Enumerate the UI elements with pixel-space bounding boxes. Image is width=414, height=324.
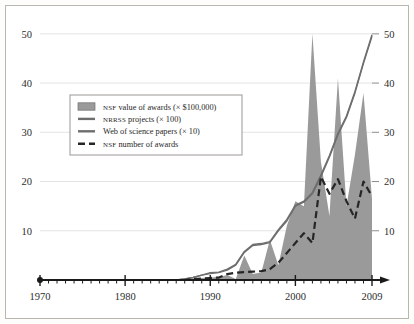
area-fill-nsf-value (40, 34, 372, 280)
figure-container: 1020304050 1020304050 197019801990200020… (0, 0, 414, 324)
x-tick-label-1970: 1970 (30, 291, 51, 302)
y-tick-label-right-30: 30 (384, 127, 395, 138)
y-tick-label-left-30: 30 (22, 127, 33, 138)
y-tick-label-right-10: 10 (384, 226, 395, 237)
y-tick-label-left-10: 10 (22, 226, 33, 237)
legend-label-3: NSF number of awards (103, 140, 178, 149)
y-tick-label-right-40: 40 (384, 78, 395, 89)
legend-label-0: NSF value of awards (× $100,000) (103, 103, 217, 112)
y-tick-label-right-20: 20 (384, 176, 395, 187)
chart-canvas: 1020304050 1020304050 197019801990200020… (0, 0, 414, 324)
x-axis-arrow-icon (380, 276, 390, 283)
x-axis-labels: 19701980199020002009 (30, 291, 383, 302)
y-axis-labels-left: 1020304050 (22, 29, 33, 237)
chart-legend: NSF value of awards (× $100,000)NRRSS pr… (70, 95, 242, 155)
legend-label-2: Web of science papers (× 10) (103, 127, 200, 136)
x-tick-label-2009: 2009 (362, 291, 383, 302)
y-tick-label-right-50: 50 (384, 29, 395, 40)
y-tick-label-left-50: 50 (22, 29, 33, 40)
x-tick-label-2000: 2000 (285, 291, 306, 302)
y-tick-label-left-40: 40 (22, 78, 33, 89)
legend-swatch-area (78, 103, 95, 110)
x-tick-label-1980: 1980 (115, 291, 136, 302)
legend-label-1: NRRSS projects (× 100) (103, 115, 181, 124)
y-tick-label-left-20: 20 (22, 176, 33, 187)
x-tick-label-1990: 1990 (200, 291, 221, 302)
y-axis-labels-right: 1020304050 (372, 29, 395, 237)
series-area-nsf-value-of-awards (40, 34, 372, 280)
